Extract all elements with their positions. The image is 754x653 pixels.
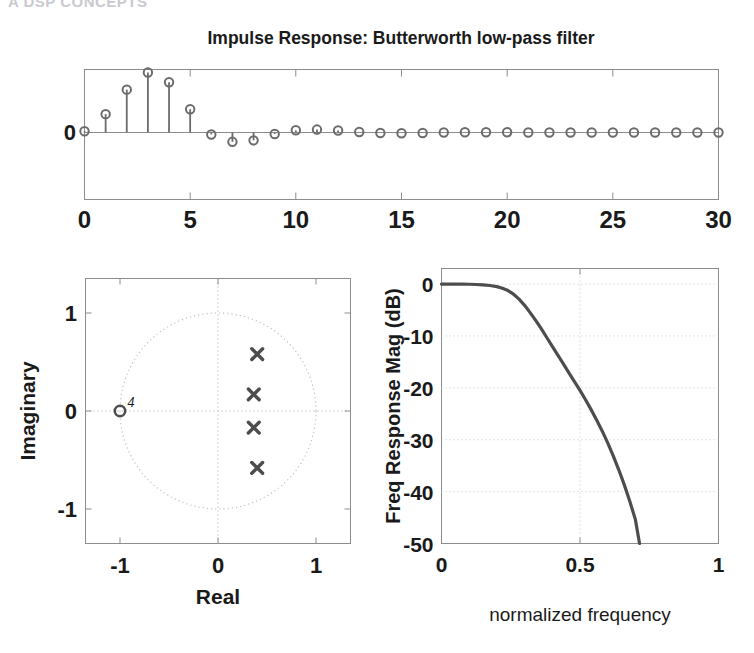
- impulse-ytick-label-0: 0: [64, 120, 76, 145]
- impulse-x-ticks: [85, 70, 719, 200]
- fr-ytick-label: -20: [403, 377, 433, 400]
- pole-zero-y-axis-label: Imaginary: [16, 361, 39, 461]
- impulse-xtick-label: 20: [494, 206, 521, 233]
- pole-marker: [252, 349, 263, 360]
- pole-zero-ytick-label-0: 0: [65, 399, 77, 424]
- frequency-response-ticks: [442, 269, 719, 544]
- frequency-response-x-axis-label: normalized frequency: [489, 604, 671, 625]
- impulse-xtick-label: 25: [599, 206, 626, 233]
- frequency-response-curve: [442, 284, 640, 543]
- frequency-response-y-axis-label: Freq Response Mag (dB): [382, 288, 404, 524]
- impulse-xtick-label: 0: [78, 206, 91, 233]
- impulse-xtick-label: 10: [282, 206, 309, 233]
- pole-zero-xtick-label-0: 0: [212, 553, 224, 578]
- pole-marker: [248, 389, 259, 400]
- pole-zero-plot: 4 1 0 -1 -1 0 1 Real Imaginary: [16, 279, 351, 609]
- impulse-response-title: Impulse Response: Butterworth low-pass f…: [208, 28, 595, 48]
- frequency-response-plot: 0-10-20-30-40-50 00.51 normalized freque…: [382, 269, 725, 626]
- fr-xtick-label: 0: [436, 553, 448, 576]
- fr-ytick-label: -50: [403, 533, 433, 556]
- pole-zero-ytick-label-minus1: -1: [57, 497, 77, 522]
- impulse-x-tick-labels: 051015202530: [78, 206, 732, 233]
- fr-ytick-label: -10: [403, 325, 433, 348]
- pole-marker: [248, 422, 259, 433]
- figure-canvas: A DSP CONCEPTS Impulse Response: Butterw…: [0, 0, 754, 653]
- frequency-response-gridlines: [442, 269, 719, 544]
- pole-zero-xtick-label-1: 1: [310, 553, 322, 578]
- frequency-response-y-tick-labels: 0-10-20-30-40-50: [403, 273, 433, 555]
- stem-marker: [397, 129, 405, 137]
- impulse-xtick-label: 5: [183, 206, 196, 233]
- impulse-stem-series: [80, 68, 722, 146]
- pole-zero-markers: 4: [115, 349, 263, 473]
- zero-multiplicity-label: 4: [128, 395, 135, 410]
- fr-ytick-label: -40: [403, 481, 433, 504]
- page-header-clipped-text: A DSP CONCEPTS: [8, 0, 148, 10]
- pole-zero-xtick-label-minus1: -1: [110, 553, 130, 578]
- fr-xtick-label: 1: [713, 553, 725, 576]
- impulse-axes-box: [85, 70, 719, 200]
- impulse-xtick-label: 30: [705, 206, 732, 233]
- impulse-response-plot: Impulse Response: Butterworth low-pass f…: [64, 28, 732, 233]
- pole-zero-ytick-label-1: 1: [65, 301, 77, 326]
- pole-zero-x-axis-label: Real: [196, 585, 240, 608]
- frequency-response-axes-box: [442, 269, 719, 544]
- matlab-figure-svg: Impulse Response: Butterworth low-pass f…: [0, 0, 754, 653]
- pole-marker: [252, 462, 263, 473]
- fr-ytick-label: 0: [422, 273, 434, 296]
- fr-xtick-label: 0.5: [565, 553, 595, 576]
- frequency-response-x-tick-labels: 00.51: [436, 553, 725, 576]
- fr-ytick-label: -30: [403, 429, 433, 452]
- impulse-xtick-label: 15: [388, 206, 415, 233]
